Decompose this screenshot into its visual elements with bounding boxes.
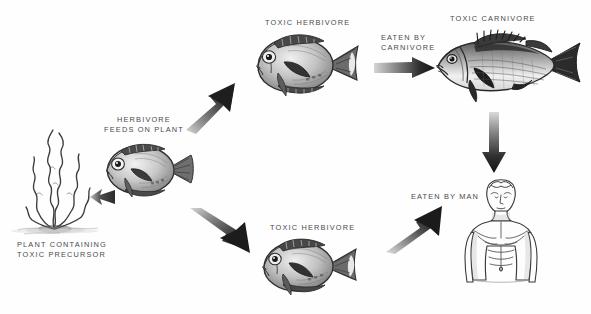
label-toxic-herbivore-top: TOXIC HERBIVORE	[265, 18, 349, 28]
label-plant-containing-toxic-precursor: PLANT CONTAINING TOXIC PRECURSOR	[17, 240, 117, 259]
toxic-carnivore-illustration	[428, 28, 588, 104]
label-eaten-by-man: EATEN BY MAN	[409, 192, 481, 202]
label-herbivore-feeds-on-plant: HERBIVORE FEEDS ON PLANT	[98, 115, 190, 134]
arrow-to-toxic-herbivore-top	[186, 74, 252, 134]
label-toxic-herbivore-bottom: TOXIC HERBIVORE	[270, 223, 354, 233]
arrow-to-toxic-herbivore-bottom	[190, 208, 266, 270]
arrow-eaten-by-man	[386, 204, 454, 254]
arrow-herbivore-to-plant	[88, 186, 116, 208]
label-eaten-by-carnivore: EATEN BY CARNIVORE	[381, 33, 435, 52]
toxic-herbivore-top-illustration	[244, 28, 366, 106]
arrow-carnivore-to-man	[481, 112, 507, 174]
figure-canvas: PLANT CONTAINING TOXIC PRECURSOR HERBIVO…	[0, 0, 591, 314]
algae-illustration	[10, 124, 105, 236]
label-toxic-carnivore: TOXIC CARNIVORE	[450, 14, 534, 24]
arrow-eaten-by-carnivore	[374, 57, 436, 79]
toxic-herbivore-bottom-illustration	[252, 233, 364, 303]
